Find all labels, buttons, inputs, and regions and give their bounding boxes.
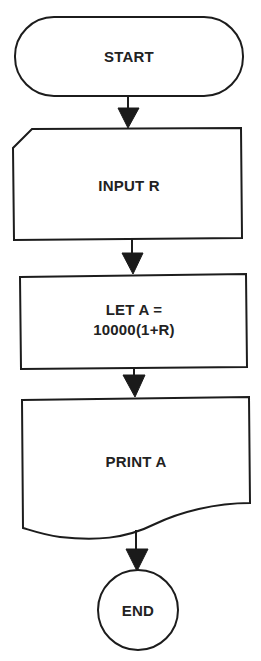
print-label: PRINT A: [106, 452, 167, 472]
process-label: LET A = 10000(1+R): [93, 300, 175, 340]
end-label: END: [122, 601, 154, 621]
start-label: START: [104, 47, 154, 67]
input-label: INPUT R: [98, 176, 159, 196]
arrowhead-down-icon: [123, 375, 145, 397]
arrowhead-down-icon: [118, 108, 139, 128]
arrowhead-down-icon: [126, 549, 148, 571]
process-label-line2: 10000(1+R): [93, 320, 175, 340]
arrowhead-down-icon: [122, 253, 143, 274]
process-label-line1: LET A =: [93, 300, 175, 320]
